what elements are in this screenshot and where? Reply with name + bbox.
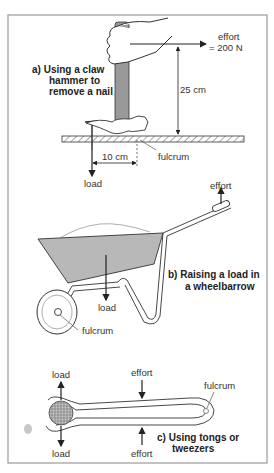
caption-b-line1: b) Raising a load in [168, 269, 260, 280]
panel-wheelbarrow: effort load fulcrum b) Raising a load in… [37, 180, 260, 336]
effort-label-c-top: effort [131, 367, 153, 378]
panel-tongs: fulcrum load load effort effort c) Using… [46, 367, 239, 459]
tongs-pivot [204, 409, 209, 414]
caption-b-line2: a wheelbarrow [185, 281, 255, 292]
held-object [49, 401, 73, 425]
wood-plank [62, 136, 244, 142]
effort-label-b: effort [210, 180, 232, 191]
fulcrum-label-a: fulcrum [158, 151, 189, 162]
print-smudge [24, 424, 32, 434]
levers-diagram: effort = 200 N 25 cm a) Using a claw ham… [0, 0, 274, 473]
effort-label-c-bottom: effort [131, 448, 153, 459]
caption-a-line2: hammer to [49, 75, 100, 86]
distance-label: 10 cm [102, 151, 128, 162]
load-label-a: load [84, 178, 102, 189]
height-label: 25 cm [180, 84, 206, 95]
caption-c-line2: tweezers [172, 443, 215, 454]
caption-a-line1: a) Using a claw [32, 64, 104, 75]
fulcrum-label-b: fulcrum [82, 325, 113, 336]
panel-claw-hammer: effort = 200 N 25 cm a) Using a claw ham… [32, 18, 244, 189]
wheel-axle [55, 309, 62, 316]
load-label-c-top: load [52, 369, 70, 380]
wheelbarrow-tray [38, 233, 163, 283]
effort-value-a: = 200 N [209, 42, 243, 53]
fulcrum-label-c: fulcrum [204, 380, 235, 391]
caption-a-line3: remove a nail [49, 86, 113, 97]
load-label-b: load [98, 302, 116, 313]
caption-c-line1: c) Using tongs or [157, 432, 239, 443]
effort-label-a: effort [218, 31, 240, 42]
load-label-c-bottom: load [52, 448, 70, 459]
